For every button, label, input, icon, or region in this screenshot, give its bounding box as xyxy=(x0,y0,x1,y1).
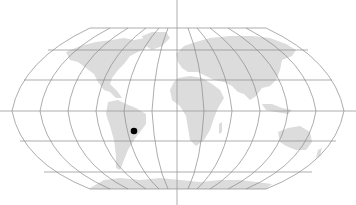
land-masses xyxy=(66,32,322,189)
world-locator-map xyxy=(0,0,356,205)
north-america xyxy=(66,38,150,98)
madagascar xyxy=(219,122,222,134)
location-marker xyxy=(131,128,138,135)
south-america xyxy=(106,100,146,170)
